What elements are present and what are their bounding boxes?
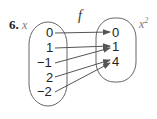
mapping-arrow xyxy=(55,60,110,77)
range-value: 1 xyxy=(112,39,119,54)
domain-value: 0 xyxy=(46,25,53,40)
range-label: x2 xyxy=(138,16,148,31)
problem-number: 6. xyxy=(9,17,19,32)
mapping-arrow xyxy=(55,46,110,48)
mapping-diagram: 6. x f x2 0 1 −1 2 −2 0 1 4 xyxy=(0,0,157,119)
function-label: f xyxy=(78,8,84,23)
domain-label: x xyxy=(21,18,28,32)
domain-value: 1 xyxy=(46,40,53,55)
domain-value: −1 xyxy=(37,55,52,70)
domain-value: 2 xyxy=(46,70,53,85)
mapping-arrow xyxy=(55,32,110,33)
range-value: 4 xyxy=(112,54,119,69)
domain-value: −2 xyxy=(37,84,52,99)
mapping-arrow xyxy=(55,48,110,63)
range-value: 0 xyxy=(112,25,119,40)
mapping-arrow xyxy=(55,63,110,92)
